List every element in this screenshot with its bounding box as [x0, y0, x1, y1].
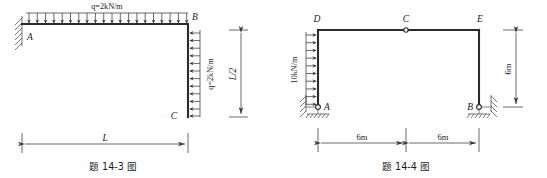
figure-14-4: 10kN/m A: [273, 0, 547, 178]
dimension-label-left: 6m: [357, 132, 368, 142]
load-label-top: q=2kN/m: [91, 2, 123, 11]
support-fixed-A: [15, 16, 22, 50]
load-left-udl: 10kN/m: [290, 32, 317, 106]
dimension-label-L2: L/2: [228, 67, 238, 81]
dimension-height-L2: L/2: [228, 30, 248, 117]
dimension-label-L: L: [101, 133, 107, 143]
frame-members: [318, 30, 479, 107]
figure-caption: 题 14-4 图: [382, 161, 430, 172]
load-label-left: 10kN/m: [290, 56, 299, 83]
dimension-label-height: 6m: [503, 63, 513, 74]
node-label-A: A: [323, 102, 330, 112]
support-pinned-A: A: [300, 95, 330, 118]
dimension-height-right: 6m: [503, 30, 523, 107]
load-top-arrows: [27, 13, 189, 24]
hinge-C: [404, 28, 408, 32]
node-label-C: C: [403, 14, 410, 24]
figure-14-3: q=2kN/m: [0, 0, 273, 178]
node-label-B: B: [467, 102, 473, 112]
support-pinned-B: B: [467, 95, 497, 118]
node-label-D: D: [313, 14, 321, 24]
figure-sheet: q=2kN/m: [0, 0, 547, 178]
dimension-label-right: 6m: [438, 132, 449, 142]
frame-members: [22, 24, 188, 117]
load-right-arrows: [189, 31, 200, 118]
dimension-span-L: L: [22, 133, 188, 153]
node-label-E: E: [476, 14, 483, 24]
node-label-C: C: [171, 111, 178, 121]
load-left-arrows: [306, 33, 317, 106]
dimension-span-right: 6m: [409, 128, 479, 152]
dimension-span-left: 6m: [318, 128, 406, 152]
load-label-right: q=2kN/m: [206, 58, 215, 90]
figure-caption: 题 14-3 图: [89, 161, 137, 172]
node-label-B: B: [192, 12, 198, 22]
load-top-udl: q=2kN/m: [26, 2, 189, 24]
node-label-A: A: [26, 32, 33, 42]
load-right-udl: q=2kN/m: [189, 30, 215, 118]
